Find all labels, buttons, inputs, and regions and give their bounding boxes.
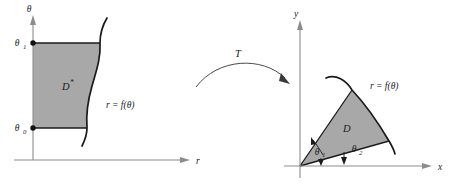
theta-upper-dot [30, 40, 35, 45]
left-curve-label: r = f(θ) [106, 100, 135, 111]
region-d-label: D [342, 123, 351, 134]
figure-canvas: θ r θ 1 θ 0 D * r = f(θ) T [0, 0, 454, 186]
theta-axis-label: θ [27, 4, 32, 14]
x-axis-label: x [437, 162, 443, 172]
region-d-star-label-superscript: * [70, 79, 74, 87]
theta-lower-tick-subscript: 0 [23, 128, 27, 135]
angle-inner-label: θ [315, 147, 320, 157]
transformation-label: T [235, 48, 242, 59]
theta-lower-dot [30, 125, 35, 130]
y-axis-label: y [293, 9, 299, 19]
transformation-arrowhead [279, 73, 290, 84]
region-d-star-label: D [61, 81, 70, 92]
theta-upper-tick-label: θ [15, 38, 20, 48]
y-axis-arrowhead [297, 20, 303, 30]
angle-inner-subscript: 1 [322, 151, 325, 158]
transformation-arc [196, 63, 285, 87]
polar-transformation-figure: θ r θ 1 θ 0 D * r = f(θ) T [0, 0, 454, 186]
right-panel-group: y x D r = f(θ) θ 1 θ 2 [284, 9, 443, 178]
r-axis-arrowhead [180, 157, 190, 163]
angle-outer-label: θ [352, 144, 357, 154]
x-axis-arrowhead [422, 163, 432, 169]
left-panel-group: θ r θ 1 θ 0 D * r = f(θ) [14, 4, 200, 166]
angle-outer-arrowhead [341, 157, 347, 165]
right-curve-label: r = f(θ) [370, 81, 399, 92]
r-axis-label: r [196, 156, 200, 166]
transformation-arrow-group: T [196, 48, 290, 87]
angle-inner-down-arrowhead [318, 159, 324, 166]
theta-upper-tick-subscript: 1 [23, 43, 26, 50]
angle-outer-subscript: 2 [359, 149, 363, 156]
theta-lower-tick-label: θ [15, 123, 20, 133]
theta-axis-arrowhead [30, 15, 36, 25]
angle-inner-arrowhead [311, 137, 316, 145]
